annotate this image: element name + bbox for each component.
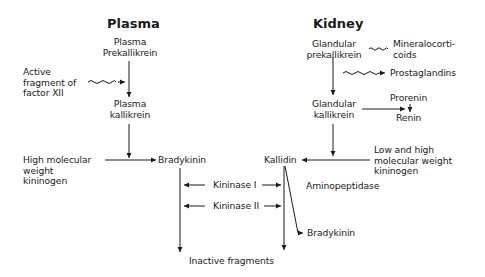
hmw-kininogen-label: High molecular weight kininogen [23,155,91,187]
factor-xii-label: Active fragment of factor XII [23,67,76,99]
renin-label: Renin [396,113,421,124]
inactive-fragments-label: Inactive fragments [189,256,274,267]
kininase-2-label: Kininase II [213,201,259,212]
glandular-prekallikrein-label: Glandular prekallikrein [304,39,364,60]
lmw-hmw-kininogen-label: Low and high molecular weight kininogen [374,145,452,177]
prorenin-label: Prorenin [390,93,427,104]
kallidin-label: Kallidin [264,155,297,166]
mineralocorticoids-label: Mineralocorti- coids [393,39,455,60]
prostaglandins-label: Prostaglandins [390,68,456,79]
bradykinin-kidney-label: Bradykinin [307,228,355,239]
plasma-kallikrein-label: Plasma kallikrein [100,99,160,120]
glandular-kallikrein-label: Glandular kallikrein [307,99,361,120]
kallikrein-kinin-diagram: Plasma Plasma Prekallikrein Active fragm… [0,0,485,277]
bradykinin-plasma-label: Bradykinin [158,155,206,166]
aminopeptidase-label: Aminopeptidase [306,181,379,192]
plasma-title: Plasma [107,17,160,31]
plasma-prekallikrein-label: Plasma Prekallikrein [96,37,164,58]
kininase-1-label: Kininase I [213,180,256,191]
kidney-title: Kidney [313,17,363,31]
